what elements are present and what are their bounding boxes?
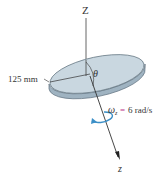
z-axis-arrowhead	[115, 151, 120, 160]
radius-label: 125 mm	[8, 74, 38, 84]
theta-label: θ	[93, 68, 98, 79]
radius-leader	[44, 79, 49, 82]
equals-sign: =	[120, 105, 125, 115]
angular-velocity-value: 6 rad/s	[128, 105, 153, 115]
disc-rotation-diagram: Z 125 mm θ z ω z = 6 rad/s	[0, 0, 167, 181]
omega-subscript: z	[114, 110, 118, 116]
omega-symbol: ω	[108, 104, 115, 115]
axis-label-z: z	[117, 163, 122, 174]
axis-label-Z: Z	[82, 4, 89, 16]
angular-velocity-label: ω z = 6 rad/s	[108, 104, 153, 116]
